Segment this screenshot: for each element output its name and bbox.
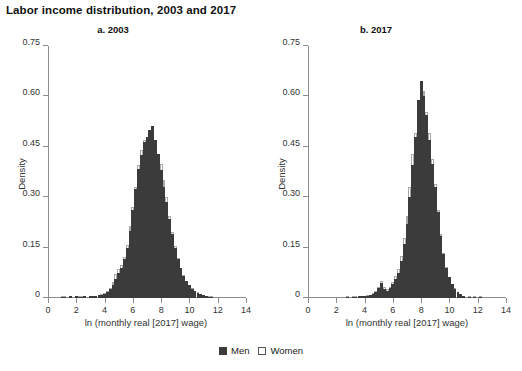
panel-b-y-axis-label: Density (276, 158, 287, 190)
x-axis-tick (133, 298, 134, 303)
histogram-bar-men (479, 297, 482, 298)
panel-a-plot-area: 00.150.300.450.600.7502468101214 (48, 46, 246, 298)
panel-a-bars (48, 46, 246, 298)
y-axis-tick-label: 0.15 (22, 239, 40, 249)
x-axis-tick (308, 298, 309, 303)
y-axis-tick-label: 0.45 (282, 138, 300, 148)
x-axis-tick-label: 0 (305, 305, 310, 315)
y-axis-tick-label: 0 (295, 289, 300, 299)
y-axis-tick (43, 146, 48, 147)
y-axis-tick (303, 196, 308, 197)
x-axis-tick (393, 298, 394, 303)
y-axis-tick-label: 0.75 (22, 37, 40, 47)
x-axis-tick-label: 4 (102, 305, 107, 315)
x-axis-tick (506, 298, 507, 303)
x-axis-tick (449, 298, 450, 303)
x-axis-tick (161, 298, 162, 303)
panel-b-plot-area: 00.150.300.450.600.7502468101214 (308, 46, 506, 298)
y-axis-tick-label: 0.45 (22, 138, 40, 148)
panel-b-title: b. 2017 (258, 24, 522, 35)
y-axis-tick-label: 0.75 (282, 37, 300, 47)
panel-a-title: a. 2003 (0, 24, 262, 35)
legend-swatch-men-icon (219, 347, 227, 355)
x-axis-tick (48, 298, 49, 303)
x-axis-tick-label: 12 (213, 305, 223, 315)
x-axis-tick (365, 298, 366, 303)
x-axis-tick (478, 298, 479, 303)
y-axis-tick (43, 247, 48, 248)
x-axis-tick-label: 12 (473, 305, 483, 315)
x-axis-tick-label: 8 (419, 305, 424, 315)
legend-label-men: Men (231, 345, 249, 356)
y-axis-tick-label: 0 (35, 289, 40, 299)
panel-a-x-axis-label: ln (monthly real [2017] wage) (0, 317, 262, 328)
x-axis-tick-label: 8 (159, 305, 164, 315)
y-axis-tick-label: 0.60 (22, 87, 40, 97)
x-axis-tick-label: 4 (362, 305, 367, 315)
x-axis-tick-label: 10 (444, 305, 454, 315)
histogram-bar-men (346, 297, 349, 298)
y-axis-tick-label: 0.30 (22, 188, 40, 198)
figure-title: Labor income distribution, 2003 and 2017 (6, 4, 236, 16)
y-axis-tick (43, 45, 48, 46)
x-axis-tick-label: 6 (390, 305, 395, 315)
histogram-bar-men (83, 296, 86, 298)
x-axis-tick-label: 14 (501, 305, 511, 315)
legend-label-women: Women (270, 345, 303, 356)
y-axis-tick (303, 95, 308, 96)
x-axis-tick-label: 6 (130, 305, 135, 315)
x-axis-tick (105, 298, 106, 303)
x-axis-tick (218, 298, 219, 303)
x-axis-tick-label: 10 (184, 305, 194, 315)
y-axis-tick (303, 146, 308, 147)
x-axis-tick (336, 298, 337, 303)
legend: Men Women (0, 345, 522, 356)
x-axis-tick (421, 298, 422, 303)
x-axis-tick-label: 14 (241, 305, 251, 315)
x-axis-tick (189, 298, 190, 303)
legend-item-men: Men (219, 345, 249, 356)
x-axis-tick-label: 0 (45, 305, 50, 315)
y-axis-tick-label: 0.15 (282, 239, 300, 249)
x-axis-tick-label: 2 (334, 305, 339, 315)
y-axis-tick (303, 45, 308, 46)
panel-2017: b. 2017 Density 00.150.300.450.600.75024… (258, 24, 522, 324)
panel-b-x-axis-label: ln (monthly real [2017] wage) (258, 317, 522, 328)
histogram-bar-men (473, 297, 476, 298)
panel-b-bars (308, 46, 506, 298)
histogram-bar-men (69, 296, 72, 298)
legend-swatch-women-icon (258, 347, 266, 355)
x-axis-tick (76, 298, 77, 303)
y-axis-tick-label: 0.30 (282, 188, 300, 198)
x-axis-tick (246, 298, 247, 303)
histogram-bar-men (211, 297, 214, 298)
panel-a-y-axis-label: Density (16, 158, 27, 190)
panel-2003: a. 2003 Density 00.150.300.450.600.75024… (0, 24, 262, 324)
y-axis-tick-label: 0.60 (282, 87, 300, 97)
legend-item-women: Women (258, 345, 303, 356)
histogram-bar-men (64, 297, 67, 298)
histogram-bar-men (462, 296, 465, 298)
histogram-bar-men (468, 297, 471, 298)
y-axis-tick (303, 247, 308, 248)
y-axis-tick (43, 95, 48, 96)
figure-root: Labor income distribution, 2003 and 2017… (0, 0, 522, 371)
x-axis-tick-label: 2 (74, 305, 79, 315)
y-axis-tick (43, 196, 48, 197)
